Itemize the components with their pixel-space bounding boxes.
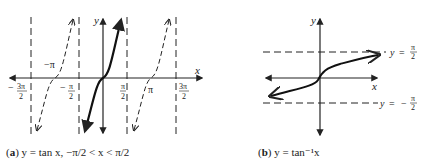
caption-a-text: y = tan x, −π/2 < x < π/2 <box>22 146 130 158</box>
tick-3pi-2: 3π 2 <box>179 82 189 101</box>
tick-neg-3pi-2: − 3π 2 <box>8 82 27 101</box>
svg-text:2: 2 <box>121 92 125 101</box>
tan-branch-right <box>134 20 169 130</box>
svg-text:2: 2 <box>182 92 186 101</box>
label-pi: π <box>148 84 153 95</box>
svg-text:−: − <box>60 82 66 93</box>
svg-text:y: y <box>379 98 385 109</box>
caption-a: (a) y = tan x, −π/2 < x < π/2 <box>6 146 129 158</box>
svg-text:=: = <box>389 98 395 109</box>
asymptote-label-top: y = π 2 <box>389 43 417 61</box>
caption-b-label: b <box>262 146 268 158</box>
arctan-curve <box>271 55 378 96</box>
figure-a-tan-graph: x y −π π − 3π 2 − π 2 π 2 3π 2 <box>8 14 202 137</box>
y-axis-label: y <box>310 14 316 26</box>
tick-pi-2: π 2 <box>120 82 126 101</box>
figure-b-arctan-graph: x y y = π 2 y = − π 2 <box>263 14 417 135</box>
svg-text:−: − <box>401 98 407 109</box>
svg-text:π: π <box>69 82 73 91</box>
svg-text:π: π <box>411 94 415 103</box>
svg-text:π: π <box>121 82 125 91</box>
svg-text:−: − <box>8 82 14 93</box>
caption-a-label: a <box>10 146 16 158</box>
svg-text:2: 2 <box>411 52 415 61</box>
svg-text:y: y <box>389 47 395 58</box>
caption-b: (b) y = tan⁻¹x <box>258 146 319 159</box>
svg-text:3π: 3π <box>179 82 187 91</box>
svg-text:2: 2 <box>69 92 73 101</box>
svg-text:=: = <box>399 47 405 58</box>
y-axis-label: y <box>93 14 99 26</box>
svg-text:2: 2 <box>411 103 415 112</box>
x-axis-label: x <box>194 64 200 76</box>
svg-text:π: π <box>411 43 415 52</box>
tan-branch-left <box>37 20 73 130</box>
x-axis-label: x <box>371 80 377 92</box>
tan-graphs-figure: x y −π π − 3π 2 − π 2 π 2 3π 2 <box>0 0 426 168</box>
svg-text:2: 2 <box>19 92 23 101</box>
caption-b-text: y = tan⁻¹x <box>274 146 319 158</box>
tick-neg-pi-2: − π 2 <box>60 82 75 101</box>
label-neg-pi: −π <box>44 59 55 70</box>
asymptote-label-bottom: y = − π 2 <box>379 94 417 112</box>
svg-text:3π: 3π <box>17 82 25 91</box>
